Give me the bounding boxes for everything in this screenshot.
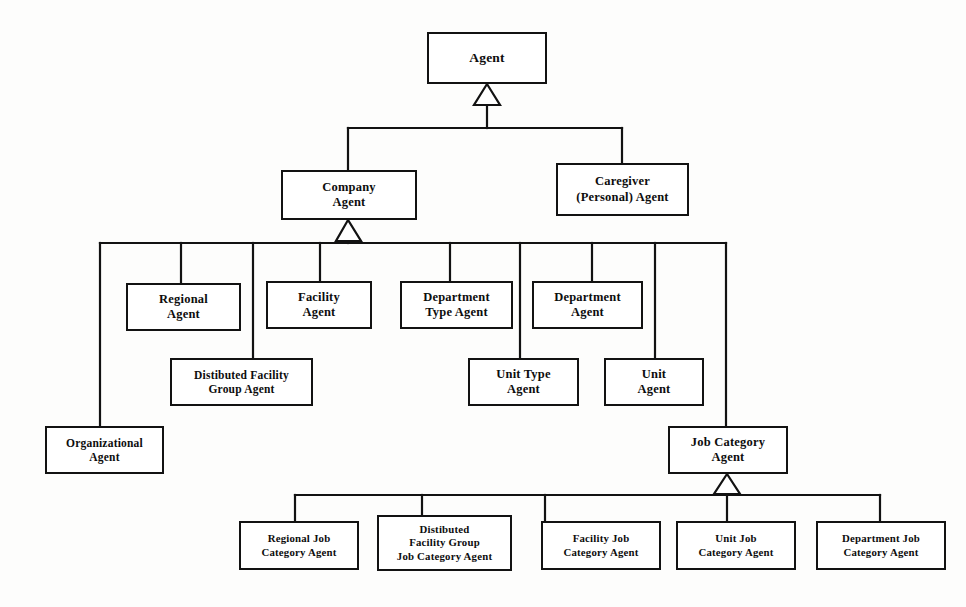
class-box-unit-job-category-agent[interactable]: Unit Job Category Agent [676, 521, 796, 570]
class-label-distibuted-facility-group-agent: Distibuted Facility Group Agent [191, 368, 292, 396]
class-box-department-job-category-agent[interactable]: Department Job Category Agent [816, 521, 946, 570]
class-box-unit-type-agent[interactable]: Unit Type Agent [468, 358, 579, 406]
class-label-department-job-category-agent: Department Job Category Agent [839, 532, 923, 558]
class-label-company-agent: Company Agent [319, 180, 379, 211]
class-label-caregiver-personal-agent: Caregiver (Personal) Agent [573, 174, 671, 205]
class-box-regional-agent[interactable]: Regional Agent [126, 283, 241, 331]
class-box-facility-job-category-agent[interactable]: Facility Job Category Agent [541, 521, 661, 570]
class-label-unit-job-category-agent: Unit Job Category Agent [695, 532, 776, 558]
class-box-distibuted-facility-group-job-category-agent[interactable]: Distibuted Facility Group Job Category A… [377, 515, 512, 571]
class-label-unit-agent: Unit Agent [635, 367, 674, 398]
class-box-job-category-agent[interactable]: Job Category Agent [668, 426, 788, 474]
class-label-regional-job-category-agent: Regional Job Category Agent [258, 532, 339, 558]
class-box-caregiver-personal-agent[interactable]: Caregiver (Personal) Agent [556, 163, 689, 216]
class-label-department-agent: Department Agent [551, 290, 624, 321]
class-box-company-agent[interactable]: Company Agent [281, 170, 417, 220]
class-box-agent[interactable]: Agent [427, 32, 547, 84]
class-box-unit-agent[interactable]: Unit Agent [604, 358, 704, 406]
class-box-distibuted-facility-group-agent[interactable]: Distibuted Facility Group Agent [170, 358, 313, 406]
class-label-distibuted-facility-group-job-category-agent: Distibuted Facility Group Job Category A… [394, 523, 495, 563]
class-box-regional-job-category-agent[interactable]: Regional Job Category Agent [239, 521, 359, 570]
class-label-organizational-agent: Organizational Agent [63, 436, 146, 464]
class-label-agent: Agent [466, 50, 508, 66]
class-label-department-type-agent: Department Type Agent [420, 290, 493, 321]
generalization-agent [348, 84, 622, 170]
class-box-department-type-agent[interactable]: Department Type Agent [400, 281, 513, 329]
class-label-unit-type-agent: Unit Type Agent [493, 367, 553, 398]
hollow-triangle-icon-agent [474, 84, 500, 105]
class-label-facility-agent: Facility Agent [295, 290, 343, 321]
class-label-facility-job-category-agent: Facility Job Category Agent [560, 532, 641, 558]
generalization-job-category-agent [295, 474, 880, 521]
class-box-facility-agent[interactable]: Facility Agent [266, 281, 372, 329]
class-box-department-agent[interactable]: Department Agent [532, 281, 643, 329]
class-label-regional-agent: Regional Agent [156, 292, 211, 323]
hollow-triangle-icon-job-category [714, 474, 740, 494]
class-box-organizational-agent[interactable]: Organizational Agent [45, 426, 164, 474]
uml-class-diagram: Agent Company Agent Caregiver (Personal)… [0, 0, 966, 607]
hollow-triangle-icon-company [336, 220, 361, 241]
class-label-job-category-agent: Job Category Agent [688, 435, 768, 466]
